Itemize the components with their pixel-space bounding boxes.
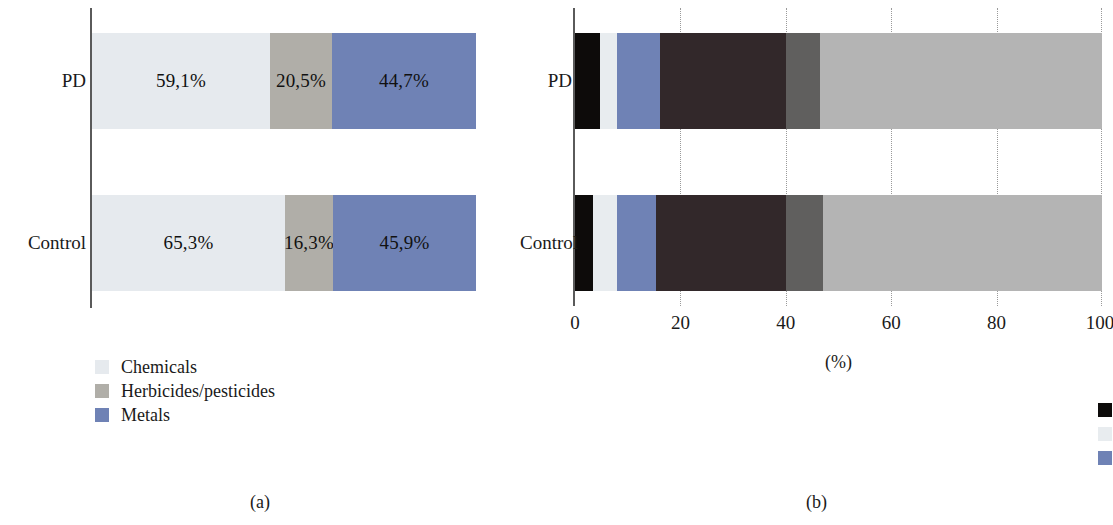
legend-swatch-construction-icon xyxy=(1098,451,1112,465)
panel-a-segment-label: 59,1% xyxy=(156,70,206,92)
panel-b-segment-mechanical-pd xyxy=(786,33,820,129)
legend-label-metals: Metals xyxy=(121,405,170,426)
legend-swatch-metals-icon xyxy=(95,408,109,422)
panel-b-segment-agriculture-pd xyxy=(575,33,600,129)
panel-a-segment-chemicals-control: 65,3% xyxy=(92,195,285,291)
panel-b-row-label-pd: PD xyxy=(520,70,572,92)
legend-swatch-herbicides-icon xyxy=(95,384,109,398)
panel-a-segment-label: 20,5% xyxy=(276,70,326,92)
panel-b-xtick-0: 0 xyxy=(570,312,580,334)
panel-a-bar-control: 65,3% 16,3% 45,9% xyxy=(92,195,476,291)
panel-a-chart: PD 59,1% 20,5% 44,7% Control 65,3% 16,3% xyxy=(0,0,520,525)
panel-a-bar-pd: 59,1% 20,5% 44,7% xyxy=(92,33,476,129)
panel-a-segment-herbicides-control: 16,3% xyxy=(285,195,333,291)
panel-a-row-label-control: Control xyxy=(6,232,86,254)
panel-b-caption: (b) xyxy=(520,492,1113,513)
panel-b-xtick-40: 40 xyxy=(776,312,795,334)
panel-a-row-label-pd: PD xyxy=(6,70,86,92)
panel-b-segment-industry-control xyxy=(593,195,617,291)
panel-b-segment-office-control xyxy=(656,195,786,291)
panel-b-segment-industry-pd xyxy=(600,33,617,129)
legend-label-chemicals: Chemicals xyxy=(121,357,197,378)
panel-b-chart: PD Control 0 20 40 60 80 100 (%) Agricul… xyxy=(520,0,1113,525)
panel-a-segment-chemicals-pd: 59,1% xyxy=(92,33,270,129)
panel-b-row-label-control: Control xyxy=(520,232,572,254)
panel-b-xtick-20: 20 xyxy=(671,312,690,334)
legend-label-herbicides: Herbicides/pesticides xyxy=(121,381,275,402)
panel-b-plot-area xyxy=(575,8,1102,306)
panel-b-segment-office-pd xyxy=(660,33,785,129)
panel-a-segment-herbicides-pd: 20,5% xyxy=(270,33,332,129)
legend-item-metals: Metals xyxy=(95,403,275,427)
panel-b-xtick-80: 80 xyxy=(987,312,1006,334)
panel-a-segment-metals-pd: 44,7% xyxy=(332,33,476,129)
legend-swatch-chemicals-icon xyxy=(95,360,109,374)
panel-a-legend: Chemicals Herbicides/pesticides Metals xyxy=(95,355,275,427)
legend-swatch-industry-icon xyxy=(1098,427,1112,441)
legend-item-chemicals: Chemicals xyxy=(95,355,275,379)
panel-a-segment-metals-control: 45,9% xyxy=(333,195,476,291)
panel-b-segment-construction-pd xyxy=(617,33,660,129)
panel-b-segment-other-control xyxy=(823,195,1102,291)
panel-b-bar-pd xyxy=(575,33,1102,129)
legend-item-herbicides: Herbicides/pesticides xyxy=(95,379,275,403)
panel-b-segment-other-pd xyxy=(820,33,1102,129)
panel-b-legend-column-1: Agriculture Industry Construction xyxy=(1098,398,1113,470)
legend-item-construction: Construction xyxy=(1098,446,1113,470)
panel-a-segment-label: 45,9% xyxy=(379,232,429,254)
legend-swatch-agriculture-icon xyxy=(1098,403,1112,417)
legend-item-industry: Industry xyxy=(1098,422,1113,446)
panel-a-segment-label: 65,3% xyxy=(163,232,213,254)
panel-a-segment-label: 44,7% xyxy=(379,70,429,92)
panel-b-segment-mechanical-control xyxy=(786,195,823,291)
panel-b-bar-control xyxy=(575,195,1102,291)
panel-b-axis-title: (%) xyxy=(575,352,1102,373)
legend-item-agriculture: Agriculture xyxy=(1098,398,1113,422)
panel-b-segment-construction-control xyxy=(617,195,656,291)
panel-a-segment-label: 16,3% xyxy=(284,232,334,254)
panel-b-xtick-60: 60 xyxy=(882,312,901,334)
panel-b-xtick-100: 100 xyxy=(1086,312,1113,334)
panel-a-caption: (a) xyxy=(0,492,520,513)
figure-container: PD 59,1% 20,5% 44,7% Control 65,3% 16,3% xyxy=(0,0,1113,525)
